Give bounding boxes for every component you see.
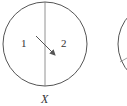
circle-x-group: 1 2 X (3, 2, 87, 106)
region-2-label: 2 (61, 37, 67, 49)
diagram-canvas: 1 2 X (0, 0, 127, 106)
region-1-label: 1 (21, 37, 27, 49)
circle-second-partial (118, 2, 127, 86)
circle-second (118, 2, 127, 86)
arrow-1-to-2 (36, 36, 55, 55)
circle-x-caption: X (40, 92, 49, 106)
